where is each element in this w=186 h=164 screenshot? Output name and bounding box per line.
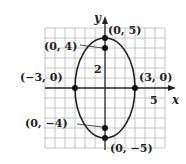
point-bottom-focus xyxy=(102,125,108,131)
label-right-covertex: (3, 0) xyxy=(139,71,172,84)
label-left-covertex: (−3, 0) xyxy=(20,71,63,84)
y-tick-label-2: 2 xyxy=(94,63,102,76)
label-top-vertex: (0, 5) xyxy=(108,24,141,37)
leader-line-bottom-focus xyxy=(77,124,103,127)
point-bottom-vertex xyxy=(102,135,108,141)
ellipse-graph: y x 5 2 (0, 5) (0, 4) (−3, 0) (3, 0) (0,… xyxy=(0,0,186,164)
point-right-covertex xyxy=(132,85,138,91)
label-bottom-focus: (0, −4) xyxy=(25,117,68,130)
leader-line-top-focus xyxy=(80,45,103,48)
point-left-covertex xyxy=(72,85,78,91)
x-tick-label-5: 5 xyxy=(150,94,158,107)
point-top-focus xyxy=(102,45,108,51)
label-top-focus: (0, 4) xyxy=(44,40,77,53)
y-axis-label: y xyxy=(93,11,102,25)
label-bottom-vertex: (0, −5) xyxy=(110,142,153,155)
x-axis-label: x xyxy=(171,93,180,107)
